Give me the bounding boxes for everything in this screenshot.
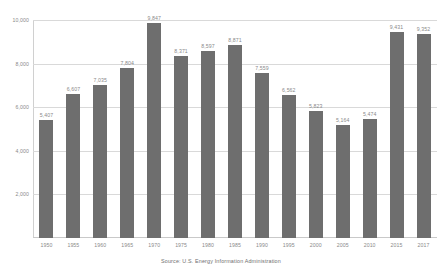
x-axis-tick-label: 1970 [148, 242, 160, 248]
bar-value-label: 7,035 [94, 77, 107, 83]
bar-value-label: 9,352 [417, 26, 430, 32]
bar[interactable] [390, 32, 404, 238]
x-axis-tick-label: 1995 [283, 242, 295, 248]
source-caption: Source: U.S. Energy Information Administ… [0, 258, 442, 264]
bar-value-label: 5,407 [40, 112, 53, 118]
bar-slot: 9,8471970 [141, 20, 168, 238]
bar-slot: 5,4071950 [33, 20, 60, 238]
y-axis-tick-label: 2,000 [16, 191, 29, 197]
x-axis-tick-label: 2015 [391, 242, 403, 248]
bar-value-label: 9,847 [147, 15, 160, 21]
x-axis-tick-label: 1990 [256, 242, 268, 248]
bar[interactable] [363, 119, 377, 238]
x-axis-tick-label: 1965 [121, 242, 133, 248]
bar-slot: 8,8711985 [222, 20, 249, 238]
bar[interactable] [93, 85, 107, 238]
bar-slot: 5,4742010 [356, 20, 383, 238]
bar-slot: 7,8041965 [114, 20, 141, 238]
bar[interactable] [66, 94, 80, 238]
y-axis-tick-label: 6,000 [16, 104, 29, 110]
x-axis-tick-label: 1950 [40, 242, 52, 248]
x-axis-tick-label: 1975 [175, 242, 187, 248]
y-axis-tick-label: 8,000 [16, 61, 29, 67]
bar-slot: 5,8232000 [302, 20, 329, 238]
bar-slot: 7,5591990 [248, 20, 275, 238]
bar-slot: 8,5971980 [195, 20, 222, 238]
bar-value-label: 9,431 [390, 24, 403, 30]
bars-group: 5,40719506,60719557,03519607,80419659,84… [33, 20, 437, 238]
x-axis-tick-label: 1985 [229, 242, 241, 248]
x-axis-tick-label: 1955 [67, 242, 79, 248]
bar-value-label: 6,562 [282, 87, 295, 93]
bar[interactable] [282, 95, 296, 238]
plot-area: 2,0004,0006,0008,00010,000 5,40719506,60… [33, 20, 437, 238]
x-axis-tick-label: 1980 [202, 242, 214, 248]
x-axis-tick-label: 2010 [364, 242, 376, 248]
bar-value-label: 6,607 [67, 86, 80, 92]
bar[interactable] [417, 34, 431, 238]
bar[interactable] [336, 125, 350, 238]
bar-slot: 7,0351960 [87, 20, 114, 238]
bar-chart: 2,0004,0006,0008,00010,000 5,40719506,60… [0, 0, 442, 279]
bar[interactable] [174, 56, 188, 238]
y-axis-tick-label: 10,000 [13, 17, 29, 23]
bar-value-label: 8,597 [201, 43, 214, 49]
y-axis-tick-label: 4,000 [16, 148, 29, 154]
bar-value-label: 5,474 [363, 111, 376, 117]
bar[interactable] [255, 73, 269, 238]
bar-slot: 9,3522017 [410, 20, 437, 238]
bar-value-label: 8,871 [228, 37, 241, 43]
bar[interactable] [228, 45, 242, 238]
bar[interactable] [309, 111, 323, 238]
x-axis-tick-label: 1960 [94, 242, 106, 248]
x-axis-tick-label: 2017 [418, 242, 430, 248]
bar[interactable] [120, 68, 134, 238]
bar-slot: 8,3711975 [168, 20, 195, 238]
bar-slot: 6,6071955 [60, 20, 87, 238]
bar-value-label: 7,804 [121, 60, 134, 66]
bar-value-label: 5,164 [336, 117, 349, 123]
bar[interactable] [39, 120, 53, 238]
bar-slot: 6,5621995 [275, 20, 302, 238]
bar-slot: 9,4312015 [383, 20, 410, 238]
bar[interactable] [201, 51, 215, 238]
bar-value-label: 8,371 [174, 48, 187, 54]
bar-value-label: 7,559 [255, 65, 268, 71]
x-axis-tick-label: 2000 [310, 242, 322, 248]
bar-value-label: 5,823 [309, 103, 322, 109]
bar-slot: 5,1642005 [329, 20, 356, 238]
x-axis-tick-label: 2005 [337, 242, 349, 248]
bar[interactable] [147, 23, 161, 238]
